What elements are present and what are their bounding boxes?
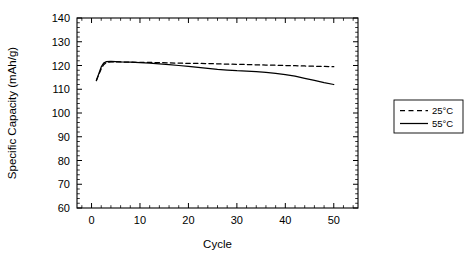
series-line-55c (96, 61, 333, 84)
x-tick-label: 30 (231, 214, 243, 226)
y-tick-label: 100 (52, 107, 70, 119)
y-tick-label: 140 (52, 12, 70, 24)
x-tick-label: 0 (88, 214, 94, 226)
chart-figure: 01020304050 60708090100110120130140 Cycl… (0, 0, 474, 258)
x-axis-title: Cycle (203, 238, 232, 250)
x-axis-ticks-top (82, 18, 353, 23)
y-tick-label: 70 (58, 178, 70, 190)
y-axis-ticks-right (353, 18, 358, 208)
plot-frame (77, 18, 358, 208)
y-axis-ticks-left (77, 18, 82, 208)
x-tick-label: 50 (328, 214, 340, 226)
y-tick-label: 60 (58, 202, 70, 214)
y-tick-label: 80 (58, 155, 70, 167)
y-tick-label: 130 (52, 36, 70, 48)
y-axis-tick-labels: 60708090100110120130140 (52, 12, 70, 214)
y-tick-label: 90 (58, 131, 70, 143)
chart-legend: 25°C 55°C (394, 100, 463, 133)
y-tick-label: 110 (52, 83, 70, 95)
y-axis-title: Specific Capacity (mAh/g) (6, 47, 18, 179)
x-axis-ticks-bottom (82, 203, 353, 208)
x-axis-tick-labels: 01020304050 (88, 214, 339, 226)
legend-label-25c: 25°C (432, 105, 453, 116)
x-tick-label: 40 (279, 214, 291, 226)
data-series-group (96, 61, 333, 84)
x-tick-label: 20 (182, 214, 194, 226)
x-tick-label: 10 (134, 214, 146, 226)
y-tick-label: 120 (52, 60, 70, 72)
legend-label-55c: 55°C (432, 118, 453, 129)
